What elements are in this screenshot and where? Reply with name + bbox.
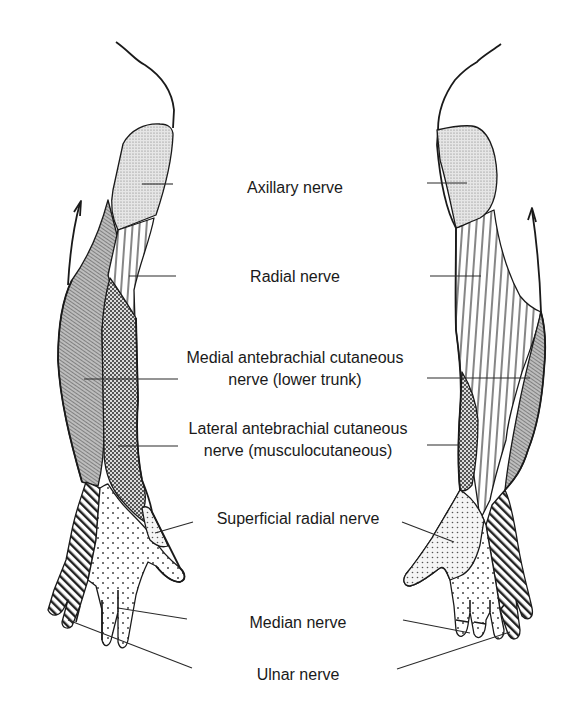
label-axillary-nerve: Axillary nerve: [247, 177, 343, 199]
label-median-nerve: Median nerve: [250, 612, 347, 634]
label-radial-nerve: Radial nerve: [250, 266, 340, 288]
label-ulnar-nerve: Ulnar nerve: [257, 664, 340, 686]
left-region-ulnar: [48, 482, 100, 628]
label-superficial-radial-nerve: Superficial radial nerve: [217, 508, 380, 530]
right-axilla-arrow: [532, 210, 541, 312]
label-medial-antebrachial-line1: Medial antebrachial cutaneous: [186, 347, 403, 369]
right-arm: [404, 44, 545, 639]
label-medial-antebrachial-line2: nerve (lower trunk): [228, 369, 361, 391]
leader-ulnar-right: [397, 632, 510, 669]
left-region-axillary: [112, 124, 173, 230]
left-shoulder-outline: [116, 42, 174, 128]
label-lateral-antebrachial-line2: nerve (musculocutaneous): [204, 440, 393, 462]
left-arm: [48, 42, 185, 648]
label-lateral-antebrachial-line1: Lateral antebrachial cutaneous: [189, 418, 408, 440]
